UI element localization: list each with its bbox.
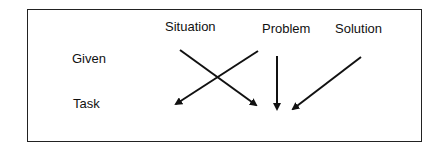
arrow-solution-to-problem xyxy=(293,57,361,109)
arrow-problem-to-situation xyxy=(176,51,258,104)
arrows-layer xyxy=(0,0,446,154)
